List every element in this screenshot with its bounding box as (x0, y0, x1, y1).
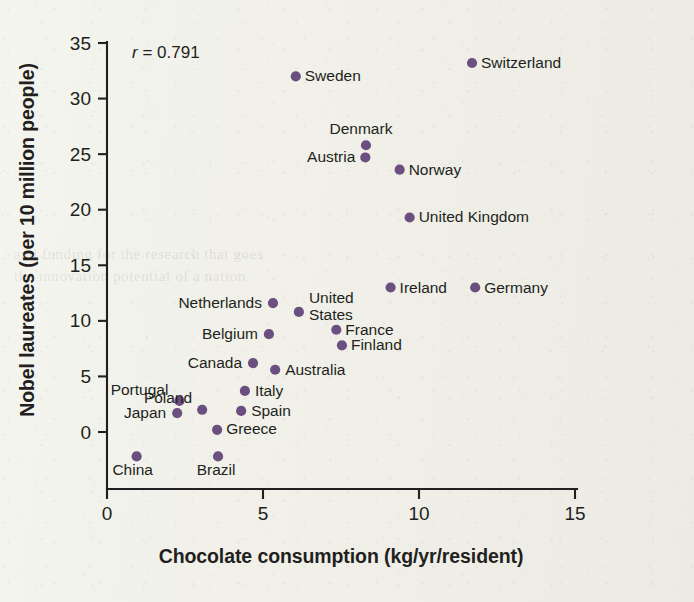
scatter-plot: 05101520253035 051015 ChinaJapanPortugal… (0, 0, 694, 602)
data-point-marker (395, 165, 405, 175)
data-point-label: Japan (124, 404, 166, 421)
y-axis-title: Nobel laureates (per 10 million people) (16, 63, 38, 417)
y-tick-label: 35 (70, 33, 91, 54)
x-tick-label: 5 (258, 503, 269, 524)
figure-container: and funding for the research that goesth… (0, 0, 694, 602)
data-point-marker (291, 71, 301, 81)
y-tick-label: 0 (80, 422, 91, 443)
data-point: Denmark (330, 120, 393, 150)
data-point-label: Spain (251, 402, 291, 419)
y-tick-label: 20 (70, 199, 91, 220)
correlation-annotation: r = 0.791 (132, 43, 200, 62)
data-point-marker (264, 329, 274, 339)
axes-group (107, 42, 577, 489)
data-point-marker (467, 58, 477, 68)
data-point: Italy (240, 382, 284, 399)
data-point-marker (361, 140, 371, 150)
data-point-label: Belgium (202, 325, 258, 342)
data-point: Netherlands (178, 294, 278, 311)
x-axis-title: Chocolate consumption (kg/yr/resident) (159, 545, 524, 567)
data-point-marker (337, 340, 347, 350)
data-point: Greece (212, 420, 277, 437)
y-tick-label: 25 (70, 144, 91, 165)
data-point: Sweden (291, 67, 361, 84)
data-point-label: Norway (409, 161, 462, 178)
data-point-marker (386, 282, 396, 292)
data-points-group: ChinaJapanPortugalPolandGreeceBrazilSpai… (111, 54, 562, 478)
data-point-marker (268, 298, 278, 308)
data-point-marker (294, 307, 304, 317)
data-point-label: UnitedStates (309, 289, 354, 323)
data-point-marker (240, 386, 250, 396)
data-point-label: Germany (484, 279, 548, 296)
data-point-marker (132, 451, 142, 461)
data-point-marker (360, 152, 370, 162)
x-tick-label: 0 (102, 503, 113, 524)
correlation-value: = 0.791 (138, 43, 200, 62)
data-point-marker (405, 212, 415, 222)
data-point: France (331, 321, 393, 338)
data-point-marker (270, 365, 280, 375)
data-point-label: United Kingdom (419, 208, 529, 225)
data-point: Australia (270, 361, 346, 378)
data-point-label: Ireland (400, 279, 447, 296)
y-tick-label: 10 (70, 310, 91, 331)
data-point-label: Sweden (305, 67, 361, 84)
data-point: Switzerland (467, 54, 561, 71)
data-point-marker (213, 451, 223, 461)
data-point: Norway (395, 161, 462, 178)
x-axis-ticks: 051015 (102, 489, 586, 524)
data-point: UnitedStates (294, 289, 354, 323)
data-point-marker (212, 425, 222, 435)
data-point: Canada (188, 354, 258, 371)
data-point-label: China (112, 461, 153, 478)
data-point-label: France (345, 321, 393, 338)
y-tick-label: 30 (70, 88, 91, 109)
data-point-marker (172, 408, 182, 418)
data-point: Germany (470, 279, 548, 296)
data-point: Ireland (386, 279, 448, 296)
data-point-label: Greece (226, 420, 277, 437)
data-point-label: Austria (307, 148, 356, 165)
data-point: Spain (236, 402, 291, 419)
data-point-label: Switzerland (481, 54, 561, 71)
x-tick-label: 15 (564, 503, 585, 524)
data-point-marker (236, 406, 246, 416)
data-point-label: Poland (144, 389, 192, 406)
data-point: Finland (337, 336, 402, 353)
data-point: Austria (307, 148, 370, 165)
data-point-marker (470, 282, 480, 292)
data-point-label: Netherlands (178, 294, 262, 311)
y-axis-ticks: 05101520253035 (70, 33, 107, 443)
x-tick-label: 10 (408, 503, 429, 524)
data-point-marker (197, 405, 207, 415)
data-point-label: Brazil (197, 461, 236, 478)
data-point-label: Italy (255, 382, 284, 399)
data-point-label: Canada (188, 354, 243, 371)
data-point: United Kingdom (405, 208, 529, 225)
data-point: Belgium (202, 325, 274, 342)
data-point: China (112, 451, 153, 478)
data-point-marker (331, 325, 341, 335)
y-tick-label: 5 (80, 366, 91, 387)
data-point-label: Denmark (330, 120, 393, 137)
data-point-marker (248, 358, 258, 368)
data-point: Japan (124, 404, 182, 421)
data-point: Brazil (197, 451, 236, 478)
data-point-label: Finland (351, 336, 402, 353)
data-point-label: Australia (285, 361, 346, 378)
y-tick-label: 15 (70, 255, 91, 276)
